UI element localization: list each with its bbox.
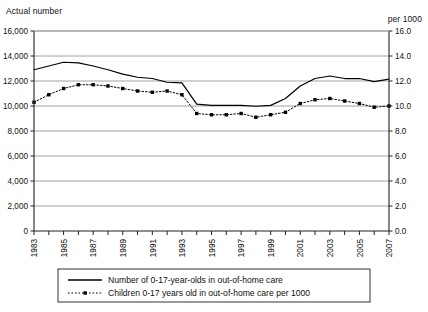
chart-legend: Number of 0-17-year-olds in out-of-home …: [58, 269, 370, 302]
svg-text:1991: 1991: [149, 239, 158, 258]
gridlines-group: [34, 31, 389, 206]
svg-text:10.0: 10.0: [395, 102, 411, 111]
svg-text:2,000: 2,000: [8, 202, 29, 211]
svg-text:12.0: 12.0: [395, 77, 411, 86]
svg-text:14,000: 14,000: [3, 52, 28, 61]
svg-text:1985: 1985: [60, 239, 69, 258]
svg-text:1999: 1999: [267, 239, 276, 258]
left-axis-ticks: 02,0004,0006,0008,00010,00012,00014,0001…: [3, 27, 34, 236]
series-group: [32, 62, 390, 119]
legend-item-label: Children 0-17 years old in out-of-home c…: [108, 288, 310, 298]
svg-text:2005: 2005: [356, 239, 365, 258]
svg-text:2001: 2001: [296, 239, 305, 258]
svg-text:0: 0: [23, 227, 28, 236]
x-axis-ticks: 1983198519871989199119931995199719992001…: [30, 231, 394, 257]
svg-text:2003: 2003: [326, 239, 335, 258]
svg-text:1995: 1995: [208, 239, 217, 258]
svg-text:8,000: 8,000: [8, 127, 29, 136]
svg-text:16,000: 16,000: [3, 27, 28, 36]
svg-text:1987: 1987: [89, 239, 98, 258]
right-axis-ticks: 0.02.04.06.08.010.012.014.016.0: [389, 27, 411, 236]
svg-text:1989: 1989: [119, 239, 128, 258]
svg-text:2.0: 2.0: [395, 202, 407, 211]
svg-text:14.0: 14.0: [395, 52, 411, 61]
svg-text:8.0: 8.0: [395, 127, 407, 136]
svg-text:1993: 1993: [178, 239, 187, 258]
svg-text:6.0: 6.0: [395, 152, 407, 161]
svg-text:0.0: 0.0: [395, 227, 407, 236]
chart-container: Actual number per 1000 02,0004,0006,0008…: [0, 0, 428, 312]
svg-text:1983: 1983: [30, 239, 39, 258]
svg-text:6,000: 6,000: [8, 152, 29, 161]
line-chart: 02,0004,0006,0008,00010,00012,00014,0001…: [0, 0, 428, 312]
svg-text:2007: 2007: [385, 239, 394, 258]
svg-text:16.0: 16.0: [395, 27, 411, 36]
svg-text:10,000: 10,000: [3, 102, 28, 111]
legend-item-label: Number of 0-17-year-olds in out-of-home …: [108, 275, 283, 285]
svg-text:12,000: 12,000: [3, 77, 28, 86]
svg-text:1997: 1997: [237, 239, 246, 258]
svg-text:4.0: 4.0: [395, 177, 407, 186]
svg-text:4,000: 4,000: [8, 177, 29, 186]
